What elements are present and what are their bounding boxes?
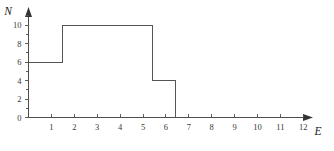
y-tick-label: 6	[17, 57, 21, 67]
x-tick-label: 9	[232, 122, 236, 132]
y-axis-ticks: 0246810	[13, 16, 29, 123]
x-tick-label: 2	[72, 122, 76, 132]
y-tick-label: 4	[17, 76, 22, 86]
x-tick-label: 3	[95, 122, 99, 132]
x-tick-label: 6	[164, 122, 168, 132]
chart-plot-area: 0246810 123456789101112 N E	[0, 0, 334, 151]
y-tick-label: 10	[13, 20, 22, 30]
x-tick-label: 7	[187, 122, 191, 132]
x-tick-label: 12	[299, 122, 308, 132]
x-tick-label: 5	[141, 122, 145, 132]
step-function-curve	[29, 25, 176, 118]
x-tick-label: 10	[253, 122, 262, 132]
y-tick-label: 2	[17, 94, 21, 104]
x-axis-arrow-icon	[303, 114, 313, 121]
x-tick-label: 8	[210, 122, 214, 132]
x-axis-label: E	[313, 125, 321, 137]
step-chart-figure: 0246810 123456789101112 N E	[0, 0, 334, 151]
y-axis-label: N	[3, 5, 13, 17]
x-tick-label: 11	[276, 122, 284, 132]
x-tick-label: 4	[118, 122, 123, 132]
x-tick-label: 1	[49, 122, 53, 132]
y-tick-label: 8	[17, 39, 21, 49]
y-tick-label: 0	[17, 113, 21, 123]
x-axis-ticks: 123456789101112	[49, 114, 307, 132]
